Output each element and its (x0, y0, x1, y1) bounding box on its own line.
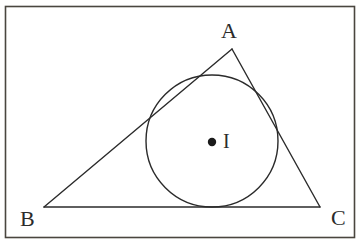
geometry-figure: A B C I (0, 0, 361, 244)
vertex-label-b: B (20, 208, 35, 230)
vertex-label-c: C (331, 207, 346, 229)
vertex-label-a: A (221, 20, 237, 42)
figure-canvas (0, 0, 361, 244)
incenter-label-i: I (223, 131, 230, 151)
incenter-point-dot (208, 138, 216, 146)
